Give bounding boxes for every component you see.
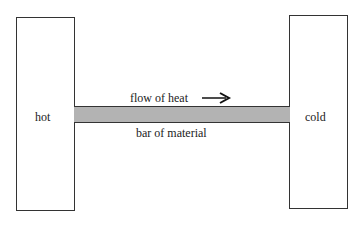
- hot-label: hot: [35, 110, 50, 124]
- cold-label: cold: [305, 110, 326, 124]
- flow-of-heat-label: flow of heat: [130, 91, 188, 105]
- bar-of-material: [74, 106, 290, 123]
- bar-of-material-label: bar of material: [136, 126, 207, 140]
- right-arrow-icon: [202, 92, 232, 104]
